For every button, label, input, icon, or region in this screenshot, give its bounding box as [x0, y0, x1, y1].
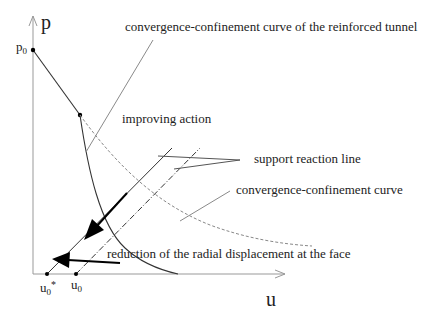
y-axis-label: p [41, 12, 51, 32]
elastic-branch [31, 48, 82, 117]
cc-curve-dashed [80, 115, 312, 246]
improving-action-label: improving action [122, 112, 211, 126]
u0-tick-label: u0 [71, 278, 82, 296]
leader-cc [180, 191, 230, 221]
x-axis-label: u [266, 289, 276, 309]
cc-curve-label: convergence-confinement curve [236, 183, 403, 197]
leader-support-1 [158, 156, 240, 160]
u0-star-tick-label: u0* [40, 278, 56, 299]
diagram-canvas [0, 0, 432, 314]
reduction-label: reduction of the radial displacement at … [107, 247, 351, 261]
axes [29, 16, 285, 278]
leader-reinforced [86, 40, 153, 152]
leader-support-2 [174, 160, 240, 169]
reinforced-curve-label: convergence-confinement curve of the rei… [125, 20, 417, 34]
u0-star-point [45, 272, 49, 276]
u0-point [74, 272, 78, 276]
support-reaction-line-label: support reaction line [254, 152, 361, 166]
improving-action-arrow [84, 193, 127, 240]
p0-tick-label: p0 [16, 40, 27, 58]
p0-point [31, 48, 35, 52]
